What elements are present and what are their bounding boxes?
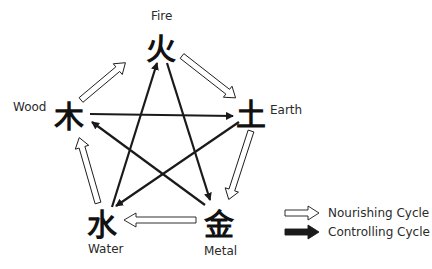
arrow-fire-to-metal [167, 63, 210, 200]
arrow-wood-to-fire [77, 57, 130, 105]
earth-label: Earth [270, 104, 302, 116]
fire-character: 火 [146, 34, 176, 64]
legend-arrows [285, 206, 319, 239]
five-elements-diagram: 火 土 金 水 木 Fire Earth Metal Water Wood No… [0, 0, 432, 269]
wood-character: 木 [54, 102, 84, 132]
arrow-wood-to-earth [90, 114, 233, 116]
arrow-water-to-fire [112, 63, 157, 207]
fire-label: Fire [151, 10, 172, 22]
earth-character: 土 [236, 100, 266, 130]
arrow-water-to-wood [73, 136, 105, 205]
water-character: 水 [87, 210, 117, 240]
legend-nourishing-label: Nourishing Cycle [328, 207, 429, 219]
wood-label: Wood [13, 101, 46, 113]
arrow-fire-to-earth [178, 50, 240, 103]
metal-character: 金 [204, 210, 234, 240]
arrow-metal-to-wood [92, 122, 205, 205]
arrow-metal-to-water [124, 213, 196, 227]
metal-label: Metal [204, 245, 237, 257]
legend-nourishing-icon [285, 206, 319, 220]
water-label: Water [88, 243, 123, 255]
legend-controlling-icon [285, 225, 319, 239]
arrow-earth-to-metal [222, 129, 258, 202]
legend-controlling-label: Controlling Cycle [328, 226, 430, 238]
nourishing-cycle-arrows [73, 50, 258, 227]
